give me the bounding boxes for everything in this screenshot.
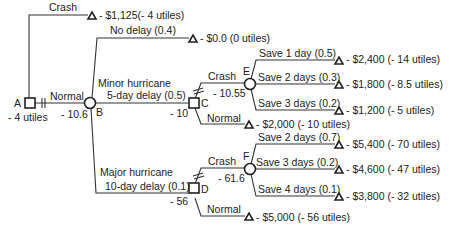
node-label-b: B <box>96 106 103 118</box>
branch-label-b-major-1: Major hurricane <box>100 166 173 178</box>
decision-node-d <box>189 183 199 193</box>
branch-label-c-crash: Crash <box>208 70 236 82</box>
outcome-f-save4: - $3,800 (- 32 utiles) <box>346 190 440 202</box>
terminal-c-normal <box>245 121 253 128</box>
chance-node-e <box>245 79 256 90</box>
decision-node-c <box>189 98 199 108</box>
branch-label-b-no-delay: No delay (0.4) <box>110 24 176 36</box>
outcome-d-normal: - $5,000 (- 56 utiles) <box>256 211 350 223</box>
chance-node-b <box>85 98 96 109</box>
node-value-e: - 10.55 <box>213 87 246 99</box>
outcome-f-save2: - $5,400 (- 70 utiles) <box>346 138 440 150</box>
node-value-f: - 61.6 <box>218 172 245 184</box>
decision-tree-diagram: A - 4 utiles B - 10.6 C - 10 D - 56 E - … <box>0 0 450 233</box>
node-label-e: E <box>243 65 250 77</box>
branch-label-c-normal: Normal <box>207 112 241 124</box>
outcome-f-save3: - $4,600 (- 47 utiles) <box>346 163 440 175</box>
terminal-a-crash <box>88 12 96 19</box>
outcome-c-normal: - $2,000 (- 10 utiles) <box>256 118 350 130</box>
branch-label-b-minor-1: Minor hurricane <box>98 77 171 89</box>
prune-mark-d <box>194 176 204 179</box>
node-label-f: F <box>243 150 249 162</box>
node-value-d: - 56 <box>170 195 188 207</box>
branch-label-b-minor-2: 5-day delay (0.5) <box>107 89 186 101</box>
node-value-a: - 4 utiles <box>8 111 48 123</box>
branch-label-f-save3: Save 3 days (0.2) <box>256 156 338 168</box>
branch-a-crash <box>29 15 88 98</box>
prune-mark-c <box>194 91 204 94</box>
outcome-e-save2: - $1,800 (- 8.5 utiles) <box>346 78 443 90</box>
branch-label-f-save2: Save 2 days (0.7) <box>258 131 340 143</box>
node-label-c: C <box>201 97 209 109</box>
branch-label-f-save4: Save 4 days (0.1) <box>258 183 340 195</box>
branch-label-a-normal: Normal <box>50 90 84 102</box>
decision-node-a <box>25 98 35 108</box>
terminal-d-normal <box>245 213 253 220</box>
branch-label-e-save3: Save 3 days (0.2) <box>258 97 340 109</box>
outcome-a-crash: - $1,125(- 4 utiles) <box>99 9 184 21</box>
terminal-e-save1 <box>335 57 343 64</box>
chance-node-f <box>245 164 256 175</box>
outcome-e-save1: - $2,400 (- 14 utiles) <box>346 53 440 65</box>
branch-label-d-crash: Crash <box>208 155 236 167</box>
outcome-e-save3: - $1,200 (- 5 utiles) <box>346 104 434 116</box>
outcome-b-no-delay: - $0.0 (0 utiles) <box>200 32 270 44</box>
node-value-c: - 10 <box>170 107 188 119</box>
branch-label-e-save2: Save 2 days (0.3) <box>258 71 340 83</box>
branch-label-a-crash: Crash <box>49 1 77 13</box>
node-label-a: A <box>14 97 21 109</box>
node-value-b: - 10.6 <box>61 108 88 120</box>
branch-label-e-save1: Save 1 day (0.5) <box>259 47 336 59</box>
branch-label-d-normal: Normal <box>207 203 241 215</box>
node-label-d: D <box>201 183 209 195</box>
terminal-b-no-delay <box>189 35 197 42</box>
branch-label-b-major-2: 10-day delay (0.1) <box>105 180 190 192</box>
